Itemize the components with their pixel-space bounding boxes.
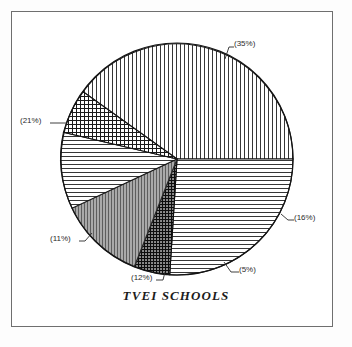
- pie-slice-16: [170, 159, 293, 275]
- pie-label-12: (12%): [131, 273, 152, 282]
- pie-label-35: (35%): [234, 39, 255, 48]
- pie-chart: (35%) (16%) (5%) (12%) (11%) (21%) TVEI …: [0, 0, 352, 347]
- chart-title: TVEI SCHOOLS: [0, 288, 352, 304]
- leader-line-16: [281, 214, 294, 220]
- figure-page: (35%) (16%) (5%) (12%) (11%) (21%) TVEI …: [0, 0, 352, 347]
- pie-label-21: (21%): [20, 116, 41, 125]
- pie-label-11: (11%): [50, 234, 71, 243]
- pie-label-16: (16%): [294, 213, 315, 222]
- pie-label-5: (5%): [239, 265, 256, 274]
